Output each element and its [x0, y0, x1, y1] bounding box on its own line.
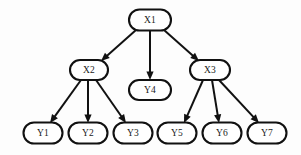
node-label: Y2	[82, 128, 94, 138]
directed-tree-diagram: X1X2Y4X3Y1Y2Y3Y5Y6Y7	[0, 0, 301, 155]
node-label: X3	[204, 65, 216, 75]
node-y6[interactable]: Y6	[203, 123, 242, 144]
node-x3[interactable]: X3	[190, 60, 230, 80]
node-label: Y1	[37, 128, 49, 138]
node-y4[interactable]: Y4	[129, 80, 171, 100]
node-label: X1	[144, 15, 156, 25]
node-y3[interactable]: Y3	[114, 123, 153, 144]
node-x2[interactable]: X2	[70, 60, 108, 80]
node-label: Y6	[216, 128, 228, 138]
edge-shaft	[219, 80, 254, 118]
edge-shaft	[187, 80, 203, 116]
node-label: X2	[83, 65, 95, 75]
edge-x1-to-x3	[164, 30, 199, 61]
edge-shaft	[54, 80, 81, 117]
edge-x3-to-y7	[219, 80, 259, 123]
arrowhead-icon	[146, 72, 153, 81]
node-label: Y5	[171, 128, 183, 138]
edge-shaft	[96, 80, 122, 117]
nodes-layer: X1X2Y4X3Y1Y2Y3Y5Y6Y7	[24, 10, 287, 144]
node-x1[interactable]: X1	[129, 10, 171, 31]
node-label: Y4	[144, 85, 156, 95]
edge-x2-to-y1	[50, 80, 81, 123]
edge-x1-to-y4	[146, 31, 153, 80]
node-y1[interactable]: Y1	[24, 123, 63, 144]
node-y2[interactable]: Y2	[69, 123, 108, 144]
node-y7[interactable]: Y7	[248, 123, 287, 144]
edge-x3-to-y5	[184, 80, 203, 123]
edge-shaft	[164, 30, 194, 56]
edge-x3-to-y6	[212, 80, 221, 123]
edge-x1-to-x2	[101, 30, 136, 61]
edge-x2-to-y2	[84, 80, 91, 123]
diagram-canvas: X1X2Y4X3Y1Y2Y3Y5Y6Y7	[0, 0, 301, 155]
edge-shaft	[106, 30, 136, 56]
edge-x2-to-y3	[96, 80, 126, 123]
node-label: Y3	[127, 128, 139, 138]
node-label: Y7	[261, 128, 273, 138]
node-y5[interactable]: Y5	[158, 123, 197, 144]
edge-shaft	[212, 80, 218, 116]
